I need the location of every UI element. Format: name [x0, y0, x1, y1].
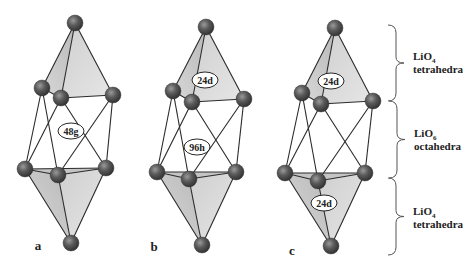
atom-sphere-um [53, 90, 69, 106]
atom-sphere-bot [323, 238, 339, 254]
atom-sphere-lr [228, 164, 244, 180]
panel-a: 48ga [17, 15, 121, 253]
bond-edge [285, 104, 321, 173]
site-label-text: 24d [316, 198, 332, 209]
legend-entry-octahedra: LiO6octahedra [389, 101, 462, 178]
atom-sphere-top [67, 15, 83, 31]
site-label-48g: 48g [58, 123, 84, 139]
atom-sphere-um [313, 96, 329, 112]
polyhedron-faces [157, 27, 244, 245]
site-label-text: 48g [64, 126, 79, 137]
atom-sphere-ll [17, 161, 33, 177]
atom-sphere-bot [194, 237, 210, 253]
atom-sphere-ul [34, 80, 50, 96]
atom-sphere-ll [149, 164, 165, 180]
bond-edge [285, 93, 302, 173]
atom-sphere-ur [105, 87, 121, 103]
bond-edge [236, 99, 244, 172]
site-label-24d: 24d [318, 73, 344, 89]
atom-sphere-um [184, 94, 200, 110]
site-label-24d: 24d [311, 195, 337, 211]
panel-label-a: a [35, 238, 42, 253]
atom-sphere-bot [63, 235, 79, 251]
polyhedra-legend: LiO4tetrahedraLiO6octahedraLiO4tetrahedr… [388, 25, 464, 255]
atom-sphere-lr [98, 160, 114, 176]
site-label-text: 24d [323, 76, 339, 87]
bond-edge [106, 95, 113, 168]
panel-b: 24d96hb [149, 19, 252, 254]
atom-sphere-ul [294, 85, 310, 101]
atom-sphere-ul [165, 83, 181, 99]
figure-canvas: 48ga24d96hb24d24dc LiO4tetrahedraLiO6oct… [0, 0, 469, 268]
atom-sphere-lr [357, 165, 373, 181]
curly-brace [388, 178, 404, 255]
legend-descriptor: tetrahedra [413, 63, 464, 75]
site-label-24d: 24d [192, 72, 218, 88]
li-site-polyhedra-figure: 48ga24d96hb24d24dc LiO4tetrahedraLiO6oct… [0, 0, 469, 268]
bond-edge [157, 102, 192, 172]
atom-sphere-lm [50, 167, 66, 183]
atom-sphere-lm [181, 171, 197, 187]
site-label-text: 24d [197, 75, 213, 86]
bond-edge [192, 102, 236, 172]
site-label-96h: 96h [184, 139, 210, 155]
curly-brace [389, 101, 405, 178]
atom-sphere-top [327, 20, 343, 36]
legend-entry-tetrahedra: LiO4tetrahedra [388, 178, 464, 255]
atom-sphere-top [198, 19, 214, 35]
structure-panels: 48ga24d96hb24d24dc [17, 15, 381, 258]
bond-edge [157, 91, 173, 172]
bond-edge [25, 88, 42, 169]
site-label-text: 96h [189, 142, 205, 153]
atom-sphere-ur [365, 93, 381, 109]
atom-sphere-ll [277, 165, 293, 181]
bond-edge [25, 98, 61, 169]
curly-brace [388, 25, 404, 101]
atom-sphere-ur [236, 91, 252, 107]
legend-entry-tetrahedra: LiO4tetrahedra [388, 25, 464, 101]
legend-descriptor: octahedra [414, 140, 462, 152]
panel-label-c: c [289, 243, 295, 258]
panel-label-b: b [150, 239, 157, 254]
bond-edge [321, 104, 365, 173]
atom-sphere-lm [310, 173, 326, 189]
legend-descriptor: tetrahedra [413, 218, 464, 230]
panel-c: 24d24dc [277, 20, 381, 258]
